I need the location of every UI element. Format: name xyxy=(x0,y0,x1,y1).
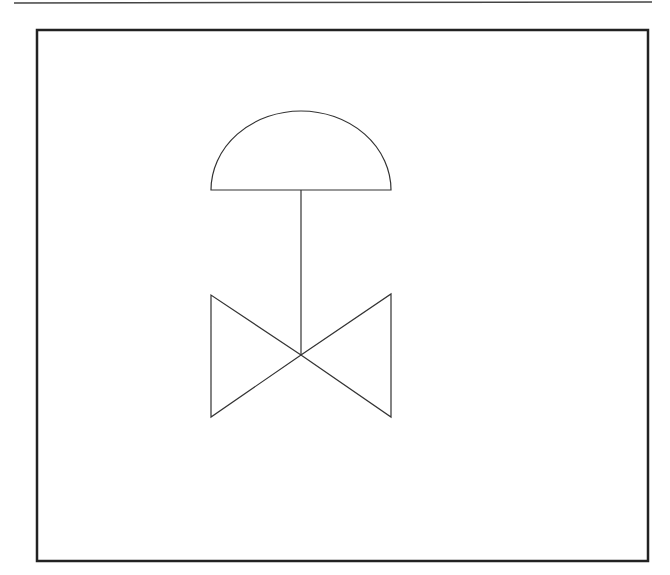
valve-body-left xyxy=(211,295,301,417)
diagram-canvas xyxy=(0,0,670,575)
valve-body-right xyxy=(301,294,391,417)
control-valve-symbol xyxy=(211,111,391,417)
actuator-dome xyxy=(211,111,391,190)
top-rule xyxy=(14,2,652,3)
frame xyxy=(37,30,648,561)
